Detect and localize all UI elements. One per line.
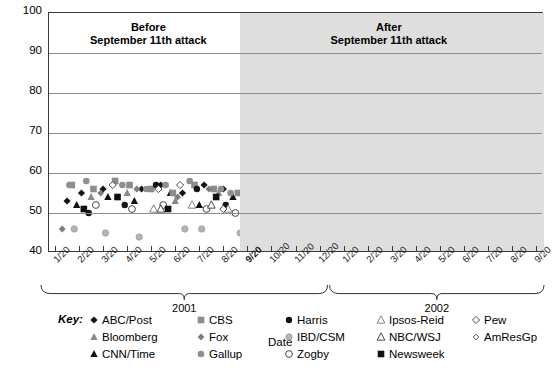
legend-marker-icon — [283, 348, 295, 360]
circle-open-icon — [283, 348, 297, 360]
legend-marker-icon — [375, 314, 387, 326]
x-tickmark-18 — [488, 246, 489, 251]
data-point — [59, 226, 66, 233]
x-tickmark-15 — [416, 246, 417, 251]
legend-marker-icon — [88, 331, 100, 343]
legend-item-label: ABC/Post — [102, 314, 152, 326]
legend-marker-icon — [195, 331, 207, 343]
x-tickmark-16 — [440, 246, 441, 251]
legend-marker-icon — [470, 314, 482, 326]
x-tickmark-13 — [368, 246, 369, 251]
data-point — [71, 226, 77, 232]
annotation-before: BeforeSeptember 11th attack — [63, 21, 234, 47]
legend-item-zogby[interactable]: Zogby — [283, 347, 329, 360]
data-point — [90, 186, 97, 193]
data-point — [104, 193, 111, 200]
data-point — [63, 197, 70, 204]
data-point — [218, 186, 225, 193]
gridline-60 — [49, 173, 542, 174]
legend-marker-icon — [195, 348, 207, 360]
diamond-gray-icon — [195, 331, 209, 343]
legend-item-label: IBD/CSM — [297, 331, 345, 343]
x-tickmark-17 — [464, 246, 465, 251]
y-tick-90: 90 — [8, 44, 42, 56]
legend-item-pew[interactable]: Pew — [470, 313, 506, 326]
legend-item-fox[interactable]: Fox — [195, 330, 228, 343]
data-point — [201, 181, 208, 188]
legend-item-gallup[interactable]: Gallup — [195, 347, 242, 360]
gridline-50 — [49, 213, 542, 214]
legend-item-bloomberg[interactable]: Bloomberg — [88, 330, 158, 343]
legend-key-label: Key: — [58, 313, 83, 325]
legend-item-label: CBS — [209, 314, 233, 326]
data-point — [207, 201, 215, 208]
data-point — [114, 194, 121, 201]
x-tickmark-14 — [392, 246, 393, 251]
legend-marker-icon — [375, 331, 387, 343]
triangle-black-icon — [88, 348, 102, 360]
gridline-70 — [49, 133, 542, 134]
circle-lightgray-icon — [283, 331, 297, 343]
legend-marker-icon — [195, 314, 207, 326]
data-point — [78, 189, 85, 196]
data-point — [162, 182, 169, 189]
legend-item-amresgp[interactable]: AmResGp — [470, 330, 537, 343]
legend-marker-icon — [88, 314, 100, 326]
plot-area: BeforeSeptember 11th attack AfterSeptemb… — [48, 12, 543, 252]
legend-marker-icon — [470, 331, 482, 343]
legend-item-ibd-csm[interactable]: IBD/CSM — [283, 330, 345, 343]
gridline-80 — [49, 93, 542, 94]
legend-item-label: Fox — [209, 331, 228, 343]
legend-item-label: Gallup — [209, 348, 242, 360]
data-point — [179, 189, 186, 196]
data-point — [136, 234, 142, 240]
legend-item-label: Zogby — [297, 348, 329, 360]
legend-item-label: AmResGp — [484, 331, 537, 343]
y-tick-100: 100 — [8, 4, 42, 16]
data-point — [122, 202, 128, 208]
legend-item-cbs[interactable]: CBS — [195, 313, 233, 326]
diamond-filled-black-icon — [88, 314, 102, 326]
legend-marker-icon — [283, 314, 295, 326]
legend-item-label: Bloomberg — [102, 331, 158, 343]
legend-item-label: CNN/Time — [102, 348, 155, 360]
legend-item-harris[interactable]: Harris — [283, 313, 328, 326]
data-point — [83, 178, 90, 185]
data-point — [165, 206, 172, 213]
data-point — [194, 186, 200, 192]
circle-gray-icon — [195, 348, 209, 360]
data-point — [213, 194, 220, 201]
data-point — [73, 201, 80, 208]
legend: Key: ABC/PostBloombergCNN/TimeCBSFoxGall… — [0, 303, 549, 381]
legend-item-abc-post[interactable]: ABC/Post — [88, 313, 152, 326]
legend-item-cnn-time[interactable]: CNN/Time — [88, 347, 155, 360]
data-point — [66, 182, 73, 189]
data-point — [81, 206, 88, 213]
legend-item-newsweek[interactable]: Newsweek — [375, 347, 445, 360]
legend-item-ipsos-reid[interactable]: Ipsos-Reid — [375, 313, 444, 326]
data-point — [188, 201, 196, 208]
data-point — [150, 205, 158, 212]
data-point — [133, 186, 140, 193]
diamond-open-icon — [470, 314, 484, 326]
brace-2002 — [330, 285, 544, 300]
legend-item-label: Harris — [297, 314, 328, 326]
post-attack-shaded-region — [240, 13, 544, 251]
data-point — [199, 226, 205, 232]
y-tick-80: 80 — [8, 84, 42, 96]
legend-item-label: NBC/WSJ — [389, 331, 441, 343]
data-point — [182, 226, 188, 232]
gridline-90 — [49, 53, 542, 54]
x-tickmark-12 — [344, 246, 345, 251]
x-tickmark-11 — [320, 246, 321, 251]
data-point — [92, 202, 99, 209]
y-tick-70: 70 — [8, 124, 42, 136]
legend-marker-icon — [283, 331, 295, 343]
legend-item-nbc-wsj[interactable]: NBC/WSJ — [375, 330, 441, 343]
triangle-open-icon — [375, 331, 389, 343]
y-tick-50: 50 — [8, 204, 42, 216]
data-point — [87, 193, 94, 200]
legend-item-label: Pew — [484, 314, 506, 326]
data-point — [227, 190, 234, 197]
